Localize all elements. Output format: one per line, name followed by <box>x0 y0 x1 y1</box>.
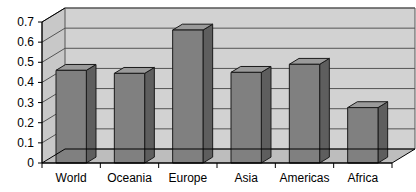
y-axis-tick-label: 0 <box>27 156 34 170</box>
bar-front-face <box>173 30 203 163</box>
bar-front-face <box>114 73 144 163</box>
x-axis-category-label: Americas <box>279 171 329 185</box>
y-axis-tick-label: 0.1 <box>17 136 34 150</box>
x-axis-category-label: Oceania <box>107 171 152 185</box>
y-axis-tick-label: 0.4 <box>17 75 34 89</box>
x-axis-category-label: World <box>56 171 87 185</box>
bar-side-face <box>320 58 330 163</box>
bar-front-face <box>348 108 378 163</box>
y-axis-tick-label: 0.7 <box>17 15 34 29</box>
x-axis-category-label: Africa <box>347 171 378 185</box>
chart-canvas: 00.10.20.30.40.50.60.7WorldOceaniaEurope… <box>0 0 416 192</box>
y-axis-tick-label: 0.2 <box>17 116 34 130</box>
bar-side-face <box>378 102 388 163</box>
bar-side-face <box>203 24 213 163</box>
x-axis-category-label: Europe <box>168 171 207 185</box>
y-axis-tick-label: 0.5 <box>17 55 34 69</box>
y-axis-tick-label: 0.6 <box>17 35 34 49</box>
bar-chart: 00.10.20.30.40.50.60.7WorldOceaniaEurope… <box>0 0 416 192</box>
bar-side-face <box>86 64 96 163</box>
bar-front-face <box>289 64 319 163</box>
x-axis-category-label: Asia <box>234 171 258 185</box>
y-axis-tick-label: 0.3 <box>17 96 34 110</box>
